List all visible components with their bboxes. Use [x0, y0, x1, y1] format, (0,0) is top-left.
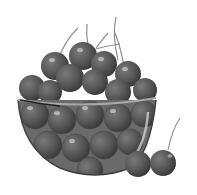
bowl: [10, 95, 170, 190]
cherry-bowl-svg: [0, 0, 197, 195]
loose-cherry-pair: [125, 150, 176, 177]
cherries-top: [19, 42, 157, 105]
cherry-bowl-illustration: [0, 0, 197, 195]
